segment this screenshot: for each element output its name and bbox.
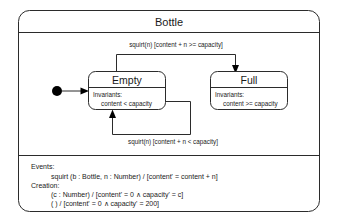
state-empty-invariants-label: Invariants: [93,91,122,98]
creation-item-0: (c : Number) / [content' = 0 ∧ capacity'… [51,191,183,199]
creation-heading: Creation: [31,182,59,189]
transition-empty-self-label: squirt(n) [content + n < capacity] [128,138,218,146]
events-item-0: squirt (b : Bottle, n : Number) / [conte… [51,173,218,181]
initial-pseudostate-dot [52,86,62,96]
creation-item-1: ( ) / [content' = 0 ∧ capacity' = 200] [51,200,159,208]
state-empty-invariant-value: content < capacity [101,100,153,108]
state-full-invariants-label: Invariants: [215,91,244,98]
state-empty-name: Empty [112,74,143,86]
state-full-invariant-value: content >= capacity [223,100,278,108]
transition-empty-to-full-label: squirt(n) [content + n >= capacity] [129,41,223,49]
state-full-name: Full [241,74,258,86]
diagram-title: Bottle [155,16,183,28]
events-heading: Events: [31,163,54,170]
uml-state-diagram: Bottle squirt(n) [content + n >= capacit… [0,0,337,223]
